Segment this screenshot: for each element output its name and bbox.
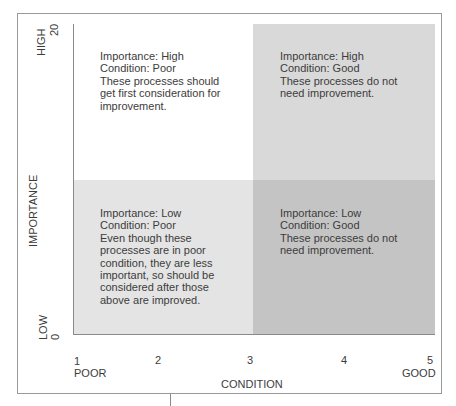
x-axis-title: CONDITION bbox=[221, 378, 283, 390]
quadrant-high-poor-text: Importance: High Condition: Poor These p… bbox=[100, 50, 220, 112]
quadrant-low-good-text: Importance: Low Condition: Good These pr… bbox=[280, 207, 397, 257]
y-axis-line bbox=[73, 24, 74, 335]
quadrant-high-poor: Importance: High Condition: Poor These p… bbox=[74, 24, 253, 180]
x-tick-4: 4 bbox=[341, 354, 347, 366]
y-axis-high-value: 20 bbox=[48, 24, 60, 36]
x-axis-poor-label: POOR bbox=[74, 367, 106, 379]
x-tick-3: 3 bbox=[247, 354, 253, 366]
x-axis-good-label: GOOD bbox=[402, 367, 436, 379]
x-axis-line bbox=[73, 334, 435, 335]
y-axis-high-label: HIGH bbox=[35, 29, 47, 57]
quadrant-low-poor: Importance: Low Condition: Poor Even tho… bbox=[74, 180, 253, 334]
quadrant-high-good: Importance: High Condition: Good These p… bbox=[253, 24, 435, 180]
y-axis-low-label: LOW bbox=[37, 315, 49, 340]
x-tick-1: 1 bbox=[74, 355, 80, 367]
x-tick-5: 5 bbox=[427, 354, 433, 366]
y-axis-title: IMPORTANCE bbox=[27, 175, 39, 247]
y-axis-low-value: 0 bbox=[49, 334, 61, 340]
quadrant-high-good-text: Importance: High Condition: Good These p… bbox=[280, 50, 397, 100]
quadrant-low-good: Importance: Low Condition: Good These pr… bbox=[253, 180, 435, 334]
connector-stub bbox=[170, 394, 171, 406]
x-tick-2: 2 bbox=[155, 354, 161, 366]
quadrant-low-poor-text: Importance: Low Condition: Poor Even tho… bbox=[100, 207, 214, 306]
